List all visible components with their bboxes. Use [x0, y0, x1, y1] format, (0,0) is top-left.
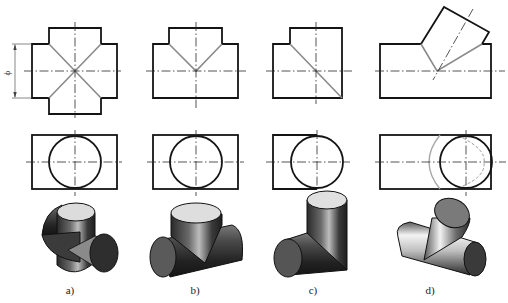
- front-view-b: [146, 22, 246, 108]
- front-view-a: [24, 22, 121, 118]
- dimension-label: ϕ: [2, 70, 12, 75]
- panel-label-d: d): [425, 284, 435, 297]
- panel-label-c: c): [309, 284, 318, 297]
- front-view-d: [375, 7, 505, 98]
- isometric-b: [150, 203, 243, 277]
- front-view-c: [266, 22, 352, 104]
- panel-a: ϕ a): [2, 22, 122, 297]
- drawing-canvas: ϕ a): [0, 0, 508, 303]
- panel-label-a: a): [66, 284, 75, 297]
- top-view-c: [266, 130, 350, 196]
- top-view-a: [26, 130, 122, 196]
- panel-c: c): [266, 22, 352, 297]
- isometric-d: [397, 193, 486, 276]
- isometric-a: [42, 203, 118, 272]
- top-view-d: [375, 130, 506, 196]
- panel-label-b: b): [190, 284, 200, 297]
- top-view-b: [147, 130, 244, 196]
- isometric-c: [274, 191, 347, 277]
- panel-b: b): [146, 22, 246, 297]
- panel-d: d): [375, 7, 506, 297]
